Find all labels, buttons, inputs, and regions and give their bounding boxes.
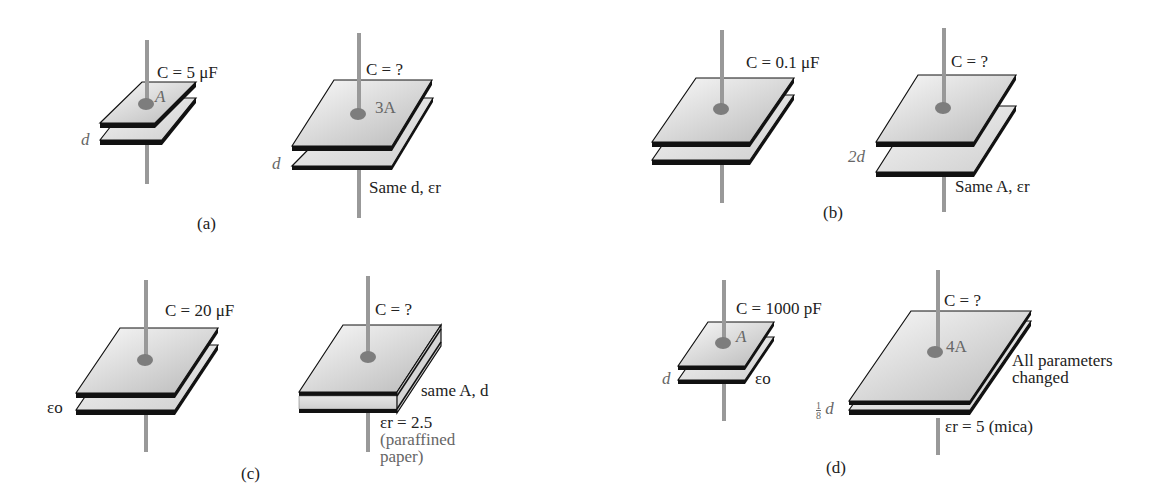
- label-b-unknown-capacitance: C = ?: [951, 53, 988, 71]
- caption-c: (c): [241, 464, 260, 484]
- caption-a: (a): [197, 214, 216, 234]
- label-d-given-dielectric: εo: [755, 370, 771, 388]
- label-d-unknown-area: 4A: [946, 338, 967, 356]
- label-d-unknown-note-line2: changed: [1012, 369, 1069, 387]
- label-d-unknown-dielectric: εr = 5 (mica): [945, 418, 1033, 436]
- label-b-given-capacitance: C = 0.1 μF: [746, 54, 820, 72]
- label-a-given-area: A: [155, 88, 165, 106]
- label-d-unknown-capacitance: C = ?: [944, 292, 981, 310]
- label-b-unknown-note: Same A, εr: [955, 178, 1030, 196]
- label-a-unknown-area: 3A: [375, 99, 396, 117]
- label-c-given-capacitance: C = 20 μF: [165, 302, 234, 320]
- label-a-unknown-capacitance: C = ?: [366, 61, 403, 79]
- label-a-given-capacitance: C = 5 μF: [157, 64, 218, 82]
- label-d-given-capacitance: C = 1000 pF: [736, 300, 822, 318]
- label-c-given-dielectric: εo: [47, 399, 63, 417]
- label-c-unknown-capacitance: C = ?: [375, 301, 412, 319]
- label-a-unknown-separation: d: [272, 155, 281, 173]
- label-d-given-area: A: [736, 328, 746, 346]
- label-a-given-separation: d: [81, 131, 90, 149]
- label-d-unknown-separation: 18 d: [816, 400, 834, 420]
- fraction-one-eighth: 18: [816, 401, 821, 420]
- caption-d: (d): [826, 458, 846, 478]
- label-a-unknown-note: Same d, εr: [369, 179, 441, 197]
- label-c-unknown-note: same A, d: [421, 382, 489, 400]
- label-c-unknown-material-line2: paper): [380, 448, 423, 466]
- label-d-given-separation: d: [662, 370, 671, 388]
- caption-b: (b): [823, 203, 843, 223]
- capacitor-a-given: [100, 40, 196, 184]
- label-b-unknown-separation: 2d: [848, 148, 865, 166]
